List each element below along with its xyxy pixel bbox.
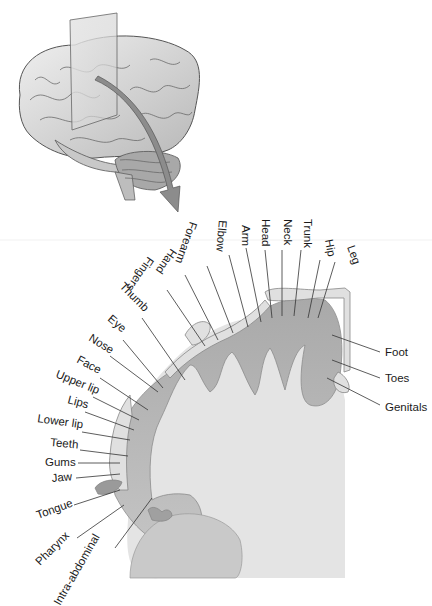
label-tongue: Tongue [35,497,75,521]
brain-lateral-view [19,13,199,212]
label-neck: Neck [282,219,294,245]
label-nose: Nose [87,332,116,356]
leader-line [229,255,248,327]
label-forearm: Forearm [173,220,199,265]
label-lower-lip: Lower lip [37,412,84,430]
label-hip: Hip [323,238,338,257]
label-elbow: Elbow [214,220,229,253]
label-foot: Foot [385,346,409,358]
label-pharynx: Pharynx [33,529,71,567]
label-genitals: Genitals [385,401,427,413]
label-leg: Leg [345,244,363,266]
label-eye: Eye [106,312,129,334]
label-lips: Lips [66,393,90,410]
leader-line [167,290,205,346]
label-teeth: Teeth [50,436,79,450]
label-gums: Gums [45,456,76,468]
homunculus-diagram: LegHipTrunkNeckHeadArmElbowForearmHandFi… [0,0,432,606]
coronal-section [95,288,350,578]
slicing-plane [70,13,117,130]
label-face: Face [75,353,103,376]
label-toes: Toes [385,372,410,384]
label-trunk: Trunk [302,219,314,248]
brainstem [115,172,135,200]
label-head: Head [260,219,272,247]
label-arm: Arm [240,225,252,246]
leader-line [110,356,158,392]
label-jaw: Jaw [51,470,73,484]
leader-line [207,266,233,333]
leader-line [77,505,124,538]
